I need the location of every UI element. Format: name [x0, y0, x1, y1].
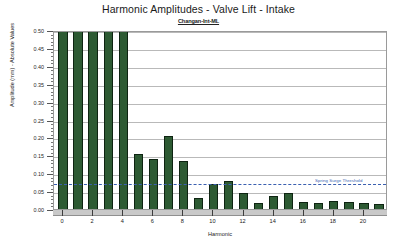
x-axis-tick-label: 14 — [270, 218, 276, 224]
bar — [194, 198, 203, 209]
y-axis-tick-label: 0.00 — [34, 207, 45, 213]
x-axis-tick-label: 2 — [91, 218, 94, 224]
x-axis-tick — [62, 210, 63, 216]
spring-surge-threshold-label: Spring Surge Threshold — [315, 178, 362, 183]
plot-area: Spring Surge Threshold — [53, 31, 387, 210]
y-axis-tick-label: 0.50 — [34, 28, 45, 34]
x-axis-tick-label: 12 — [239, 218, 245, 224]
bar — [314, 203, 323, 209]
y-axis-tick-label: 0.25 — [34, 118, 45, 124]
bar — [284, 193, 293, 209]
x-axis-tick — [212, 210, 213, 216]
bar — [374, 204, 383, 209]
x-axis-tick — [303, 210, 304, 216]
x-axis-tick-label: 8 — [181, 218, 184, 224]
bar — [88, 31, 97, 209]
x-axis-tick — [122, 210, 123, 216]
bar — [239, 193, 248, 209]
y-axis-title: Amplitude (mm) - Absolute Values — [9, 5, 15, 125]
bar — [104, 31, 113, 209]
spring-surge-threshold-line — [54, 184, 386, 185]
chart-title: Harmonic Amplitudes - Valve Lift - Intak… — [0, 3, 397, 15]
y-axis-tick-labels: 0.000.050.100.150.200.250.300.350.400.45… — [18, 31, 44, 210]
bar — [359, 203, 368, 209]
x-axis-tick — [92, 210, 93, 216]
bar — [269, 196, 278, 209]
bar — [329, 201, 338, 209]
x-axis-title: Harmonic — [53, 231, 387, 237]
y-axis-tick-label: 0.15 — [34, 153, 45, 159]
y-axis-tick-label: 0.30 — [34, 100, 45, 106]
harmonic-amplitudes-chart: Harmonic Amplitudes - Valve Lift - Intak… — [0, 0, 397, 246]
bar — [164, 136, 173, 209]
y-axis-tick-label: 0.35 — [34, 82, 45, 88]
x-axis-tick-label: 18 — [330, 218, 336, 224]
bar — [58, 31, 67, 209]
x-axis-tick-label: 0 — [60, 218, 63, 224]
bar — [254, 203, 263, 209]
x-axis-tick — [333, 210, 334, 216]
bar — [134, 154, 143, 209]
y-axis-tick-label: 0.40 — [34, 64, 45, 70]
x-axis-tick-label: 10 — [209, 218, 215, 224]
bar — [299, 202, 308, 209]
chart-subtitle: Changan-Int-ML — [0, 18, 397, 24]
x-axis-tick-label: 16 — [300, 218, 306, 224]
y-axis-tick-label: 0.10 — [34, 171, 45, 177]
y-axis-tick-label: 0.45 — [34, 46, 45, 52]
bar — [73, 31, 82, 209]
x-axis-tick — [182, 210, 183, 216]
x-axis-tick — [273, 210, 274, 216]
y-axis-tick-label: 0.20 — [34, 135, 45, 141]
chart-subtitle-text: Changan-Int-ML — [178, 18, 219, 24]
bar — [209, 184, 218, 209]
x-axis-tick — [363, 210, 364, 216]
x-axis-tick — [243, 210, 244, 216]
bar — [119, 31, 128, 209]
bar — [344, 202, 353, 209]
x-axis-tick — [152, 210, 153, 216]
x-axis-tick-label: 20 — [360, 218, 366, 224]
x-axis-strip — [53, 210, 387, 216]
x-axis-tick-labels: 02468101214161820 — [53, 218, 387, 228]
y-axis-tick-label: 0.05 — [34, 189, 45, 195]
x-axis-tick-label: 6 — [151, 218, 154, 224]
x-axis-tick-label: 4 — [121, 218, 124, 224]
